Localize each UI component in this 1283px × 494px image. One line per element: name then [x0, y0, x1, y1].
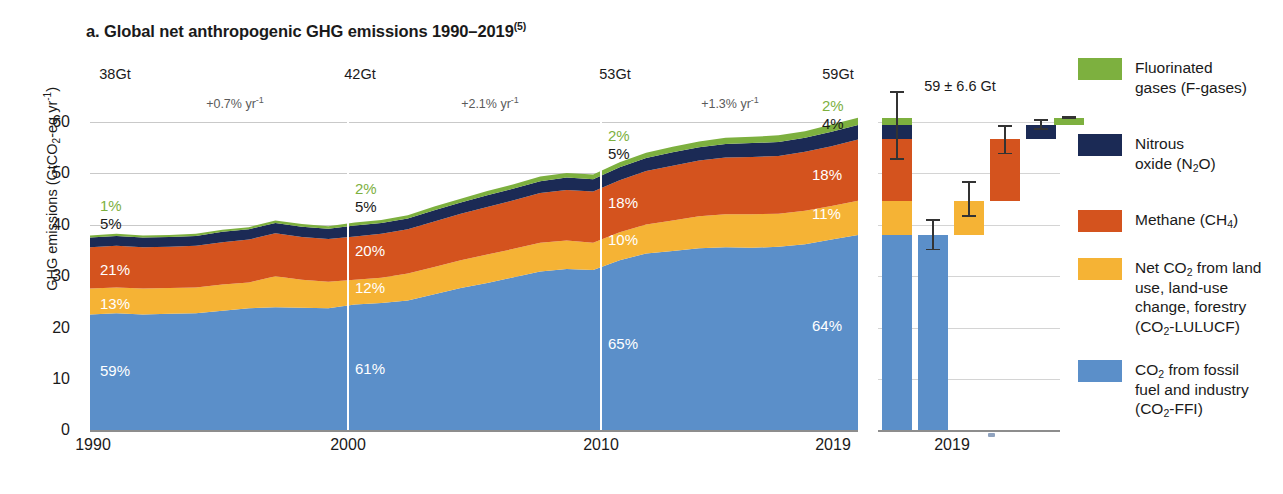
legend-label-lulucf: Net CO2 from land use, land-use change, … [1135, 258, 1261, 337]
bar-nitrous-oxide-n2o- [1026, 125, 1056, 430]
legend-swatch-lulucf-icon [1078, 258, 1122, 280]
share-label-2000-ch4: 20% [355, 243, 385, 258]
share-label-2000-co2ffi: 61% [355, 361, 385, 376]
bar-segment-co2-lulucf [882, 201, 912, 235]
error-bar-methane-ch4- [998, 125, 1012, 154]
y-tick: 40 [36, 217, 70, 233]
x-tick-2019: 2019 [815, 436, 851, 454]
y-tick: 30 [36, 268, 70, 284]
legend-label-n2o: Nitrousoxide (N2O) [1135, 134, 1216, 173]
axis-speck [988, 433, 995, 437]
x-tick-2000: 2000 [330, 436, 366, 454]
inset-bar-chart [878, 110, 1060, 430]
legend-swatch-f-gases-icon [1078, 58, 1122, 80]
share-label-1990-fgases: 1% [100, 198, 122, 213]
growth-rate-1990-2000: +0.7% yr-1 [206, 95, 264, 111]
error-bar-co2-ffi [926, 219, 940, 250]
error-bar-f-gases [1062, 116, 1076, 119]
legend-item-methane[interactable]: Methane (CH4) [1078, 210, 1238, 232]
legend-item-n2o[interactable]: Nitrousoxide (N2O) [1078, 134, 1216, 173]
x-tick-2010: 2010 [583, 436, 619, 454]
error-bar-co2-lulucf [962, 181, 976, 217]
growth-rate-2000-2010: +2.1% yr-1 [461, 95, 519, 111]
y-tick: 50 [36, 165, 70, 181]
legend-swatch-co2-ffi-icon [1078, 360, 1122, 382]
legend-swatch-methane-icon [1078, 210, 1122, 232]
y-tick: 0 [36, 422, 70, 438]
legend-label-methane: Methane (CH4) [1135, 210, 1238, 230]
y-tick: 60 [36, 114, 70, 130]
bar-axis-line [878, 430, 1060, 432]
year-marker-2010 [600, 110, 602, 430]
x-tick-bar-2019: 2019 [934, 436, 970, 454]
growth-rate-2010-2019: +1.3% yr-1 [701, 95, 759, 111]
error-bar-nitrous-oxide-n2o- [1034, 119, 1048, 129]
x-tick-1990: 1990 [75, 436, 111, 454]
legend-item-f-gases[interactable]: Fluorinatedgases (F-gases) [1078, 58, 1247, 97]
share-label-1990-lulucf: 13% [100, 296, 130, 311]
total-label-2000: 42Gt [344, 66, 375, 82]
x-axis-line [90, 430, 858, 432]
area-series-group [90, 110, 858, 430]
y-axis-ticks: 60 50 40 30 20 10 0 [36, 0, 70, 494]
legend-item-co2-ffi[interactable]: CO2 from fossil fuel and industry (CO2-F… [1078, 360, 1249, 419]
legend-label-co2-ffi: CO2 from fossil fuel and industry (CO2-F… [1135, 360, 1249, 419]
share-label-1990-ch4: 21% [100, 262, 130, 277]
stacked-area-chart [90, 110, 858, 430]
share-label-2019-fgases: 2% [822, 98, 844, 113]
legend-item-lulucf[interactable]: Net CO2 from land use, land-use change, … [1078, 258, 1261, 337]
share-label-2010-n2o: 5% [608, 146, 630, 161]
legend-label-f-gases: Fluorinatedgases (F-gases) [1135, 58, 1247, 97]
bar-methane-ch4- [990, 139, 1020, 430]
share-label-2000-fgases: 2% [355, 181, 377, 196]
y-tick: 10 [36, 371, 70, 387]
share-label-1990-co2ffi: 59% [100, 363, 130, 378]
share-label-2019-n2o: 4% [822, 116, 844, 131]
share-label-2019-co2ffi: 64% [812, 318, 842, 333]
bar-segment-co2-ffi [882, 235, 912, 430]
page-title: a. Global net anthropogenic GHG emission… [86, 20, 526, 41]
bar-total-label: 59 ± 6.6 Gt [924, 78, 996, 94]
y-tick: 20 [36, 320, 70, 336]
total-label-2019: 59Gt [822, 66, 853, 82]
share-label-1990-n2o: 5% [100, 216, 122, 231]
footnote-marker: (5) [514, 20, 527, 32]
share-label-2000-lulucf: 12% [355, 280, 385, 295]
share-label-2010-fgases: 2% [608, 128, 630, 143]
total-label-2010: 53Gt [599, 66, 630, 82]
share-label-2000-n2o: 5% [355, 199, 377, 214]
year-marker-2000 [347, 110, 349, 430]
share-label-2010-ch4: 18% [608, 195, 638, 210]
share-label-2010-lulucf: 10% [608, 232, 638, 247]
page-title-text: a. Global net anthropogenic GHG emission… [86, 22, 514, 40]
share-label-2019-lulucf: 11% [812, 206, 841, 221]
share-label-2010-co2ffi: 65% [608, 336, 638, 351]
bar-co2-lulucf [954, 201, 984, 430]
bar-total-stacked- [882, 125, 912, 430]
legend-swatch-n2o-icon [1078, 134, 1122, 156]
total-label-1990: 38Gt [99, 66, 130, 82]
share-label-2019-ch4: 18% [812, 167, 842, 182]
bar-body [918, 235, 948, 430]
figure-panel-a: a. Global net anthropogenic GHG emission… [0, 0, 1283, 494]
bar-co2-ffi [918, 235, 948, 430]
error-bar-total-stacked- [890, 91, 904, 159]
